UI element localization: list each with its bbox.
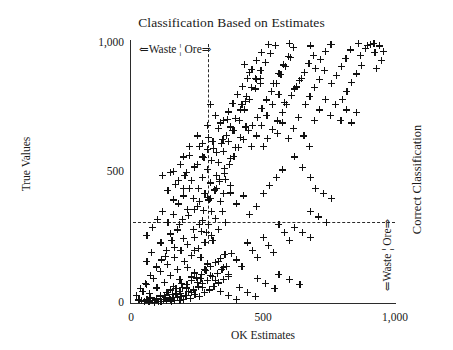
- scatter-point: [225, 108, 232, 115]
- scatter-point: [196, 293, 203, 300]
- scatter-point: [220, 276, 227, 283]
- scatter-point: [167, 286, 174, 293]
- scatter-point: [157, 293, 164, 300]
- scatter-point: [307, 42, 314, 49]
- scatter-point: [197, 254, 204, 261]
- scatter-point: [179, 284, 186, 291]
- scatter-point: [184, 206, 191, 213]
- chart-figure: Classification Based on Estimates ⇐Waste…: [0, 0, 453, 350]
- scatter-point: [257, 67, 264, 74]
- scatter-point: [253, 203, 260, 210]
- scatter-point: [160, 296, 167, 303]
- scatter-point: [300, 132, 307, 139]
- scatter-point: [221, 251, 228, 258]
- scatter-point: [266, 182, 273, 189]
- scatter-point: [321, 67, 328, 74]
- x-tick-label-500: 500: [233, 311, 293, 323]
- scatter-point: [233, 200, 240, 207]
- scatter-point: [232, 115, 239, 122]
- scatter-point: [306, 143, 313, 150]
- scatter-point: [275, 271, 282, 278]
- scatter-point: [183, 281, 190, 288]
- scatter-point: [209, 237, 216, 244]
- scatter-point: [202, 267, 209, 274]
- scatter-point: [157, 292, 164, 299]
- scatter-point: [212, 277, 219, 284]
- scatter-point: [199, 140, 206, 147]
- scatter-point: [234, 91, 241, 98]
- scatter-point: [183, 169, 190, 176]
- scatter-point: [305, 60, 312, 67]
- scatter-point: [180, 185, 187, 192]
- scatter-point: [320, 190, 327, 197]
- scatter-point: [328, 195, 335, 202]
- scatter-point: [258, 49, 265, 56]
- scatter-point: [299, 229, 306, 236]
- y-tick-label-1000: 1,000: [78, 36, 124, 48]
- scatter-point: [190, 286, 197, 293]
- top-waste-ore-annotation: ⇐Waste ¦ Ore⇒: [139, 42, 211, 56]
- scatter-point: [207, 272, 214, 279]
- scatter-point: [153, 264, 160, 271]
- scatter-point: [279, 119, 286, 126]
- scatter-point: [328, 80, 335, 87]
- scatter-point: [147, 272, 154, 279]
- scatter-point: [210, 145, 217, 152]
- scatter-point: [327, 112, 334, 119]
- scatter-point: [195, 245, 202, 252]
- scatter-point: [355, 40, 362, 47]
- scatter-point: [188, 177, 195, 184]
- scatter-point: [307, 208, 314, 215]
- scatter-point: [153, 284, 160, 291]
- scatter-point: [312, 185, 319, 192]
- scatter-point: [204, 277, 211, 284]
- scatter-point: [235, 144, 242, 151]
- scatter-point: [265, 41, 272, 48]
- scatter-point: [171, 244, 178, 251]
- scatter-point: [237, 134, 244, 141]
- scatter-point: [191, 247, 198, 254]
- scatter-point: [376, 42, 383, 49]
- scatter-point: [286, 40, 293, 47]
- scatter-point: [180, 192, 187, 199]
- scatter-point: [263, 96, 270, 103]
- scatter-point: [291, 153, 298, 160]
- scatter-point: [220, 264, 227, 271]
- scatter-point: [362, 45, 369, 52]
- scatter-point: [217, 119, 224, 126]
- scatter-point: [230, 153, 237, 160]
- scatter-point: [149, 224, 156, 231]
- scatter-point: [200, 207, 207, 214]
- scatter-point: [240, 136, 247, 143]
- scatter-point: [227, 123, 234, 130]
- scatter-point: [191, 234, 198, 241]
- scatter-point: [210, 283, 217, 290]
- scatter-point: [224, 116, 231, 123]
- scatter-point: [198, 271, 205, 278]
- scatter-point: [238, 101, 245, 108]
- scatter-point: [172, 181, 179, 188]
- scatter-point: [279, 109, 286, 116]
- scatter-point: [254, 275, 261, 282]
- scatter-point: [195, 185, 202, 192]
- scatter-point: [176, 276, 183, 283]
- scatter-point: [244, 289, 251, 296]
- scatter-point: [176, 288, 183, 295]
- scatter-point: [274, 130, 281, 137]
- scatter-point: [170, 196, 177, 203]
- scatter-point: [271, 285, 278, 292]
- scatter-point: [168, 237, 175, 244]
- scatter-point: [199, 174, 206, 181]
- scatter-point: [185, 212, 192, 219]
- scatter-point: [161, 279, 168, 286]
- scatter-point: [348, 119, 355, 126]
- scatter-point: [174, 294, 181, 301]
- scatter-point: [343, 106, 350, 113]
- scatter-point: [161, 292, 168, 299]
- scatter-point: [137, 285, 144, 292]
- scatter-point: [197, 275, 204, 282]
- scatter-point: [180, 235, 187, 242]
- scatter-point: [167, 230, 174, 237]
- scatter-point: [317, 56, 324, 63]
- scatter-point: [269, 101, 276, 108]
